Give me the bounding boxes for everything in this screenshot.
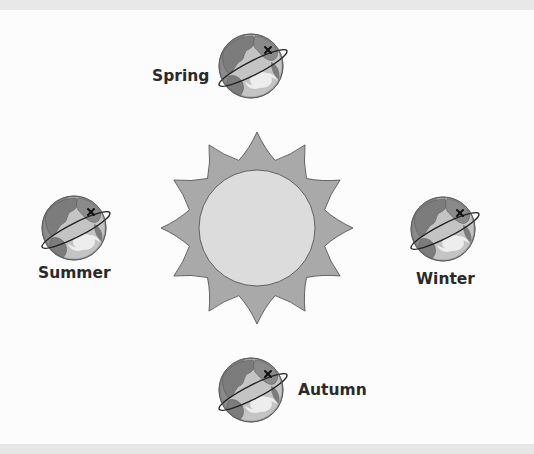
label-autumn: Autumn bbox=[298, 383, 367, 399]
earth-globe-spring-icon bbox=[216, 34, 290, 100]
label-spring: Spring bbox=[152, 69, 209, 85]
label-winter: Winter bbox=[416, 272, 475, 288]
sun bbox=[161, 132, 353, 324]
earth-globe-summer-icon bbox=[39, 196, 113, 262]
earth-globe-autumn-icon bbox=[216, 358, 290, 424]
earth-globe-winter-icon bbox=[408, 197, 482, 263]
label-summer: Summer bbox=[38, 266, 111, 282]
sun-core bbox=[199, 170, 315, 286]
seasons-diagram bbox=[0, 0, 534, 454]
